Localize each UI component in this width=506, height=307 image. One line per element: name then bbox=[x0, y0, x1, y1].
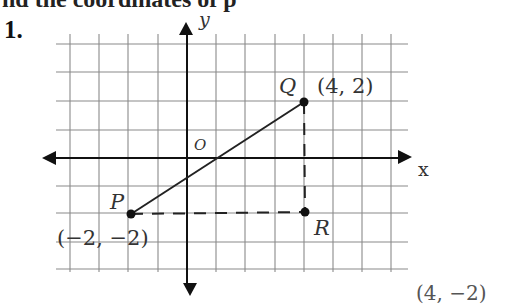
point-R-coords: (4, −2) bbox=[416, 281, 487, 305]
point-R-name: R bbox=[314, 216, 330, 240]
coordinate-plane bbox=[0, 0, 506, 307]
point-Q-name: Q bbox=[279, 74, 296, 98]
segment-PR-dashed bbox=[131, 212, 305, 214]
point-P bbox=[127, 210, 136, 219]
origin-label: O bbox=[194, 136, 206, 154]
point-Q bbox=[300, 98, 309, 107]
x-axis-left-arrow-icon bbox=[42, 151, 56, 165]
y-axis-down-arrow-icon bbox=[183, 283, 197, 296]
x-axis-label: x bbox=[418, 158, 429, 180]
x-axis-right-arrow-icon bbox=[398, 150, 412, 164]
point-P-coords: (−2, −2) bbox=[57, 226, 149, 250]
y-axis-label: y bbox=[199, 8, 210, 30]
point-P-name: P bbox=[110, 190, 124, 214]
point-Q-coords: (4, 2) bbox=[317, 74, 373, 98]
point-R bbox=[301, 208, 310, 217]
y-axis-up-arrow-icon bbox=[179, 22, 193, 35]
